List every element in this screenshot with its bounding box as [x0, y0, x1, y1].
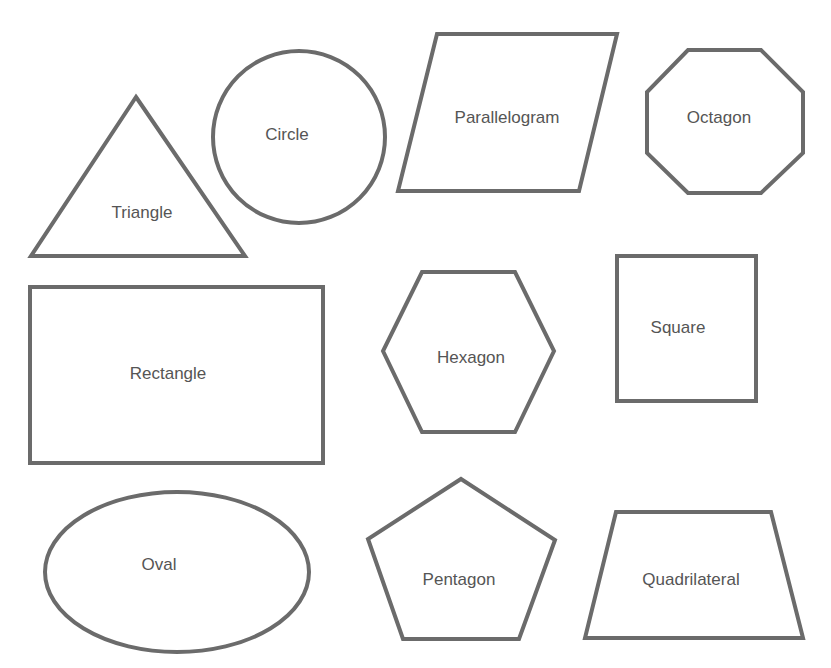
- circle-shape: Circle: [213, 51, 385, 223]
- oval-shape: Oval: [45, 492, 309, 652]
- parallelogram-label: Parallelogram: [455, 108, 560, 127]
- rectangle-shape: Rectangle: [30, 287, 323, 463]
- oval-outline: [45, 492, 309, 652]
- hexagon-shape: Hexagon: [383, 272, 554, 432]
- triangle-label: Triangle: [112, 203, 173, 222]
- octagon-shape: Octagon: [647, 50, 803, 193]
- pentagon-outline: [368, 479, 555, 639]
- hexagon-label: Hexagon: [437, 348, 505, 367]
- quadrilateral-shape: Quadrilateral: [585, 512, 803, 638]
- oval-label: Oval: [142, 555, 177, 574]
- pentagon-shape: Pentagon: [368, 479, 555, 639]
- circle-label: Circle: [265, 125, 308, 144]
- shapes-diagram: Triangle Circle Parallelogram Octagon Re…: [0, 0, 831, 668]
- square-label: Square: [651, 318, 706, 337]
- octagon-label: Octagon: [687, 108, 751, 127]
- pentagon-label: Pentagon: [423, 570, 496, 589]
- quadrilateral-label: Quadrilateral: [642, 570, 739, 589]
- rectangle-label: Rectangle: [130, 364, 207, 383]
- square-shape: Square: [617, 256, 756, 401]
- parallelogram-shape: Parallelogram: [398, 34, 617, 191]
